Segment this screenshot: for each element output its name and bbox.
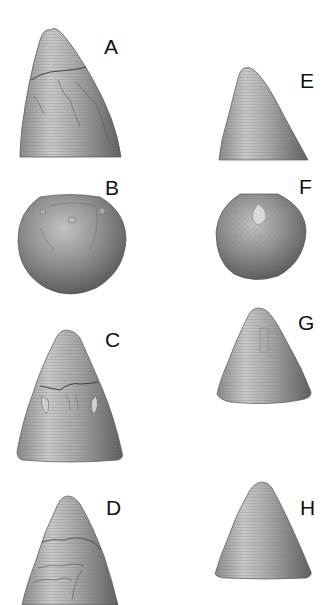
specimen-h-illustration — [170, 460, 333, 605]
specimen-e-illustration — [170, 40, 333, 170]
panel-label-c: C — [105, 329, 120, 350]
panel-f: F — [170, 170, 333, 310]
panel-label-d: D — [106, 497, 121, 518]
panel-label-e: E — [300, 70, 314, 91]
panel-label-f: F — [299, 176, 312, 197]
panel-a: A — [0, 0, 170, 170]
specimen-c-illustration — [0, 310, 170, 470]
panel-h: H — [170, 460, 333, 605]
panel-label-b: B — [105, 177, 119, 198]
panel-d: D — [0, 470, 170, 605]
specimen-b-illustration — [0, 170, 170, 310]
figure-plate: A E B F — [0, 0, 333, 605]
panel-e: E — [170, 40, 333, 170]
panel-label-h: H — [300, 497, 315, 518]
panel-b: B — [0, 170, 170, 310]
panel-label-a: A — [104, 36, 118, 57]
panel-g: G — [170, 300, 333, 460]
specimen-d-illustration — [0, 470, 170, 605]
panel-label-g: G — [298, 312, 314, 333]
panel-c: C — [0, 310, 170, 470]
specimen-a-illustration — [0, 0, 170, 170]
